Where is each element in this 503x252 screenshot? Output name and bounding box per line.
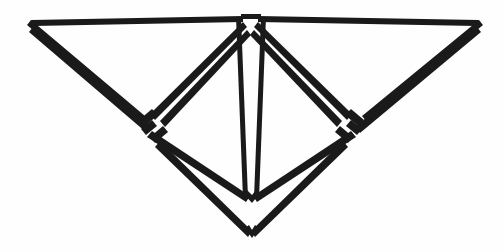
figure-background [0, 0, 503, 252]
geometric-line-drawing [0, 0, 503, 252]
figure-canvas: Abstract symmetric figure composed of do… [0, 0, 503, 252]
top-center-notch [241, 14, 261, 19]
